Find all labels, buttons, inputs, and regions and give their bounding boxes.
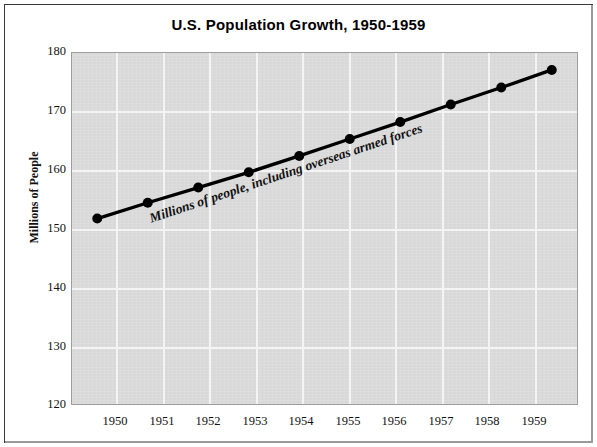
chart-page: U.S. Population Growth, 1950-1959 Millio… — [0, 0, 597, 447]
y-tick-label: 140 — [26, 280, 66, 295]
data-point — [193, 183, 203, 193]
y-tick-label: 120 — [26, 397, 66, 412]
y-tick-label: 170 — [26, 103, 66, 118]
y-axis-tick-labels: 180 170 160 150 140 130 120 — [22, 52, 66, 405]
data-point — [446, 100, 456, 110]
x-tick-label: 1959 — [504, 414, 564, 429]
y-tick-label: 150 — [26, 221, 66, 236]
data-point — [547, 65, 557, 75]
series-line-chart — [72, 53, 577, 404]
y-tick-label: 180 — [26, 44, 66, 59]
data-point — [143, 198, 153, 208]
y-tick-label: 160 — [26, 162, 66, 177]
series-line — [97, 70, 552, 219]
x-axis-tick-labels: 1950 1951 1952 1953 1954 1955 1956 1957 … — [71, 414, 578, 434]
data-point — [92, 214, 102, 224]
plot-area: Millions of people, including overseas a… — [71, 52, 578, 405]
chart-title: U.S. Population Growth, 1950-1959 — [0, 16, 597, 33]
data-point — [496, 83, 506, 93]
y-tick-label: 130 — [26, 339, 66, 354]
